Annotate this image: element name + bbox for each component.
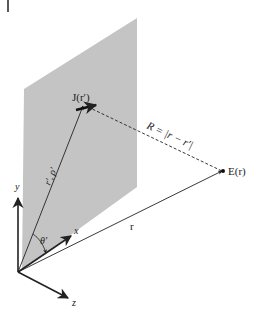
axis-x-label: x — [73, 225, 79, 236]
dot-icon — [221, 169, 225, 173]
z-axis — [18, 272, 68, 298]
angle-label: θ′ — [40, 235, 48, 246]
axis-y-label: y — [14, 181, 20, 192]
vector-diagram: J(r′) R = |r − r′| E(r) r′, ρ′ r θ′ y x … — [0, 0, 264, 320]
source-label: J(r′) — [72, 91, 90, 104]
source-plane — [22, 18, 137, 270]
field-point-label: E(r) — [228, 165, 246, 178]
axis-z-label: z — [71, 297, 76, 308]
field-vector-label: r — [130, 220, 134, 232]
